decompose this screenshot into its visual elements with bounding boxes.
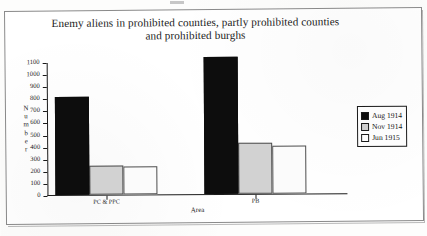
y-axis-tick: 500 [43, 136, 47, 137]
chart-title-line1: Enemy aliens in prohibited counties, par… [51, 15, 339, 29]
y-axis-tick-label: 0 [37, 191, 40, 198]
chart: Enemy aliens in prohibited counties, par… [0, 0, 427, 236]
y-axis-tick: 600 [43, 123, 47, 124]
y-axis-tick-label: 500 [30, 131, 40, 138]
legend-label: Jun 1915 [372, 133, 400, 142]
legend-item: Nov 1914 [361, 121, 402, 132]
y-axis-tick: 0 [43, 196, 47, 197]
y-axis-tick: 1000 [43, 75, 47, 76]
bar [123, 167, 157, 195]
y-axis-line [47, 63, 49, 196]
y-axis-tick-label: 1000 [27, 70, 40, 77]
bar [238, 143, 272, 194]
y-axis-tick-label: 300 [30, 155, 40, 162]
y-axis-tick: 1100 [43, 63, 47, 64]
y-axis-tick: 700 [43, 111, 47, 112]
legend-item: Aug 1914 [361, 110, 402, 121]
y-axis-tick: 400 [43, 148, 47, 149]
y-axis-tick-label: 900 [30, 82, 40, 89]
y-axis-tick-label: 700 [30, 106, 40, 113]
y-axis-tick: 100 [43, 184, 47, 185]
chart-legend: Aug 1914 Nov 1914 Jun 1915 [357, 106, 407, 147]
legend-swatch-nov-1914 [361, 123, 369, 131]
scanned-chart-page: Enemy aliens in prohibited counties, par… [0, 0, 427, 236]
x-axis-title: Area [48, 205, 348, 215]
y-axis-tick-label: 600 [30, 119, 40, 126]
y-axis-tick: 200 [43, 172, 47, 173]
bar [55, 97, 90, 195]
legend-label: Aug 1914 [372, 111, 402, 120]
bar [204, 57, 239, 194]
chart-title-line2: and prohibited burghs [35, 28, 355, 42]
plot-area: 010020030040050060070080090010001100 [47, 61, 348, 196]
bar [272, 145, 306, 194]
legend-swatch-jun-1915 [361, 134, 369, 142]
y-axis-tick: 300 [43, 160, 47, 161]
legend-label: Nov 1914 [372, 122, 402, 131]
x-axis-category-label: PB [215, 197, 295, 204]
y-axis-tick-label: 1100 [27, 58, 40, 65]
y-axis-tick-label: 400 [30, 143, 40, 150]
chart-title: Enemy aliens in prohibited counties, par… [35, 15, 355, 42]
legend-swatch-aug-1914 [361, 112, 369, 120]
legend-item: Jun 1915 [361, 132, 402, 143]
y-axis-tick: 900 [43, 87, 47, 88]
bar [89, 166, 123, 195]
y-axis-tick-label: 800 [30, 94, 40, 101]
y-axis-tick: 800 [43, 99, 47, 100]
y-axis-tick-label: 100 [30, 179, 40, 186]
x-axis-category-label: PC & PPC [66, 197, 146, 204]
y-axis-tick-label: 200 [30, 167, 40, 174]
